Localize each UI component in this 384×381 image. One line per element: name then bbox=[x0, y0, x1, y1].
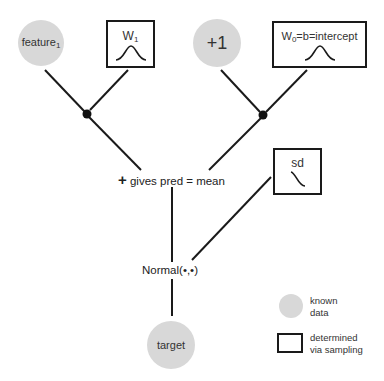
edge-plus1-mult2 bbox=[221, 70, 260, 112]
w1-subscript: 1 bbox=[134, 35, 138, 44]
sum-label: gives pred = mean bbox=[130, 175, 225, 187]
edge-feature-mult1 bbox=[45, 70, 85, 112]
node-feature: feature1 bbox=[18, 20, 64, 66]
bell-curve-icon bbox=[303, 44, 337, 62]
w0-suffix: =b=intercept bbox=[296, 30, 357, 42]
multiply-dot-2 bbox=[259, 111, 268, 120]
edge-w0-mult2 bbox=[266, 70, 307, 112]
decay-curve-icon bbox=[288, 170, 308, 188]
w0-label: W bbox=[282, 30, 292, 42]
node-sd: sd bbox=[273, 148, 322, 195]
multiply-dot-1 bbox=[83, 110, 92, 119]
sum-node: + gives pred = mean bbox=[118, 171, 225, 188]
legend-sampled-text: determined via sampling bbox=[310, 332, 363, 356]
w1-label: W bbox=[123, 29, 134, 43]
node-target: target bbox=[147, 321, 195, 369]
target-label: target bbox=[157, 339, 185, 351]
edge-mult2-sum bbox=[209, 118, 261, 170]
edge-w1-mult1 bbox=[90, 70, 128, 110]
node-w1: W1 bbox=[106, 20, 155, 68]
legend-known-swatch bbox=[279, 294, 303, 318]
node-plus-one: +1 bbox=[193, 19, 241, 67]
node-w0: W0=b=intercept bbox=[272, 21, 367, 68]
plus-symbol: + bbox=[118, 171, 127, 188]
sd-label: sd bbox=[291, 156, 304, 170]
plus-one-label: +1 bbox=[207, 33, 228, 54]
feature-label: feature bbox=[22, 36, 56, 48]
edge-sd-normal bbox=[192, 177, 271, 260]
normal-node: Normal(•,•) bbox=[142, 264, 198, 276]
legend-sampled-swatch bbox=[277, 333, 303, 353]
feature-subscript: 1 bbox=[56, 41, 60, 50]
edge-mult1-sum bbox=[89, 117, 141, 170]
bell-curve-icon bbox=[114, 44, 148, 62]
legend-known-text: known data bbox=[310, 295, 337, 319]
